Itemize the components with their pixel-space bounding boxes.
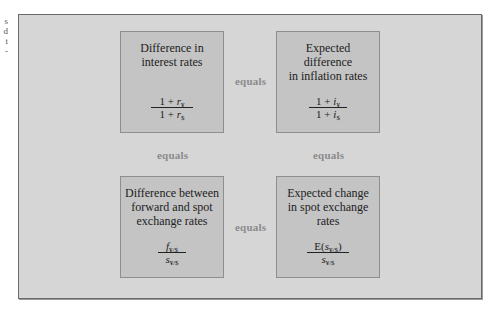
fraction: f¥/$ s¥/$ xyxy=(121,240,223,265)
box-inflation-rate-difference: Expected difference in inflation rates 1… xyxy=(276,31,380,133)
equals-connector-left: equals xyxy=(157,149,188,161)
fraction: E(s¥/$) s¥/$ xyxy=(277,240,379,265)
box-title: Difference between forward and spot exch… xyxy=(121,186,223,228)
fragment-char: d xyxy=(0,26,8,36)
fraction: 1 + i¥ 1 + i$ xyxy=(277,95,379,120)
fragment-char: s xyxy=(0,16,8,26)
title-line: Difference between xyxy=(123,186,221,200)
title-line: exchange rates xyxy=(123,214,221,228)
box-title: Expected difference in inflation rates xyxy=(277,41,379,83)
title-line: Difference in xyxy=(123,41,221,55)
fraction-denominator: s¥/$ xyxy=(319,253,336,265)
equals-connector-top: equals xyxy=(235,75,266,87)
title-line: in spot exchange xyxy=(279,200,377,214)
box-forward-spot-difference: Difference between forward and spot exch… xyxy=(120,176,224,278)
box-expected-spot-change: Expected change in spot exchange rates E… xyxy=(276,176,380,278)
title-line: Expected change xyxy=(279,186,377,200)
cropped-caption-fragment: s d t - xyxy=(0,16,8,56)
title-line: Expected xyxy=(279,41,377,55)
fragment-char: - xyxy=(0,46,8,56)
fraction-denominator: s¥/$ xyxy=(163,253,180,265)
diagram-frame: Difference in interest rates 1 + r¥ 1 + … xyxy=(18,14,482,299)
fraction-numerator: 1 + r¥ xyxy=(158,95,187,107)
box-title: Expected change in spot exchange rates xyxy=(277,186,379,228)
fraction-denominator: 1 + r$ xyxy=(158,108,187,120)
title-line: in inflation rates xyxy=(279,69,377,83)
equals-connector-bottom: equals xyxy=(235,221,266,233)
fraction-numerator: f¥/$ xyxy=(164,240,180,252)
title-line: difference xyxy=(279,55,377,69)
title-line: forward and spot xyxy=(123,200,221,214)
fraction-numerator: 1 + i¥ xyxy=(314,95,342,107)
title-line: interest rates xyxy=(123,55,221,69)
fragment-char: t xyxy=(0,36,8,46)
box-interest-rate-difference: Difference in interest rates 1 + r¥ 1 + … xyxy=(120,31,224,133)
fraction-denominator: 1 + i$ xyxy=(314,108,342,120)
equals-connector-right: equals xyxy=(313,149,344,161)
fraction: 1 + r¥ 1 + r$ xyxy=(121,95,223,120)
fraction-numerator: E(s¥/$) xyxy=(312,240,343,252)
box-title: Difference in interest rates xyxy=(121,41,223,69)
title-line: rates xyxy=(279,214,377,228)
